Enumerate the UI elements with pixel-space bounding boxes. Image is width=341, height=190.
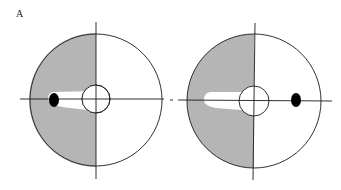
black-marker xyxy=(49,93,59,107)
figure-canvas xyxy=(0,0,341,190)
black-marker xyxy=(291,93,301,107)
right-diagram xyxy=(170,23,332,180)
left-diagram xyxy=(20,22,164,179)
